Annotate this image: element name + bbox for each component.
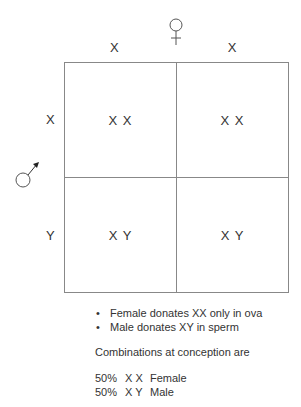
notes-bullets: Female donates XX only in ova Male donat… <box>94 306 294 334</box>
cell-r2c2: X Y <box>176 177 289 293</box>
result-genotype: X X <box>125 371 150 385</box>
result-pct: 50% <box>95 371 125 385</box>
male-symbol-icon <box>14 160 42 190</box>
result-sex: Female <box>150 371 187 385</box>
column-label-2: X <box>226 40 238 55</box>
cell-r2c1: X Y <box>64 177 177 293</box>
result-genotype: X Y <box>125 385 150 399</box>
cell-r1c1: X X <box>64 62 177 178</box>
bullet-female: Female donates XX only in ova <box>94 306 294 320</box>
result-pct: 50% <box>95 385 125 399</box>
female-symbol-icon <box>168 18 184 46</box>
row-label-2: Y <box>46 228 55 243</box>
combinations-heading: Combinations at conception are <box>95 345 295 359</box>
result-row-male: 50% X Y Male <box>95 385 295 399</box>
results-list: 50% X X Female 50% X Y Male <box>95 371 295 399</box>
column-label-1: X <box>110 40 119 55</box>
bullet-male: Male donates XY in sperm <box>94 320 294 334</box>
result-row-female: 50% X X Female <box>95 371 295 385</box>
cell-r1c2: X X <box>176 62 289 178</box>
row-label-1: X <box>46 112 55 127</box>
result-sex: Male <box>150 385 174 399</box>
